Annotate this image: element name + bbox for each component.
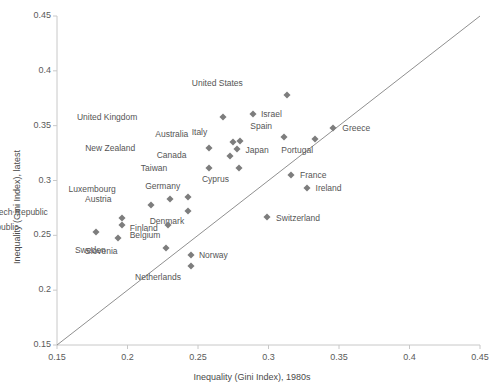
x-tick-label-5: 0.4 xyxy=(396,352,424,362)
data-point-label: Spain xyxy=(250,121,272,131)
y-tick-label-1: 0.2 xyxy=(17,284,51,294)
y-tick-label-2: 0.25 xyxy=(17,229,51,239)
data-point-label: France xyxy=(300,170,326,180)
y-tick-label-4: 0.35 xyxy=(17,120,51,130)
x-tick-label-3: 0.3 xyxy=(255,352,283,362)
x-axis-title: Inequality (Gini Index), 1980s xyxy=(0,372,504,382)
data-point-label: Slovenia xyxy=(85,246,118,256)
data-point-label: Austria xyxy=(85,194,111,204)
x-tick-label-2: 0.25 xyxy=(184,352,212,362)
y-axis-title: Inequality (Gini Index), latest xyxy=(12,150,22,264)
x-tick-label-4: 0.35 xyxy=(325,352,353,362)
data-point-label: Portugal xyxy=(281,145,313,155)
data-point-label: Greece xyxy=(342,123,370,133)
data-point-label: New Zealand xyxy=(85,143,135,153)
data-point-label: Belgium xyxy=(130,230,161,240)
data-point-label: Japan xyxy=(245,145,268,155)
data-point-label: Italy xyxy=(192,127,208,137)
data-point-label: Switzerland xyxy=(276,213,320,223)
data-point-label: Australia xyxy=(155,129,188,139)
data-point-label: Taiwan xyxy=(141,163,167,173)
y-tick-label-5: 0.4 xyxy=(17,65,51,75)
y-tick-label-3: 0.3 xyxy=(17,175,51,185)
x-tick-label-6: 0.45 xyxy=(466,352,494,362)
chart-canvas xyxy=(0,0,504,392)
data-point-label: Norway xyxy=(199,250,228,260)
data-point-label: Ireland xyxy=(316,183,342,193)
data-point-label: Germany xyxy=(145,181,180,191)
data-point-label: United Kingdom xyxy=(77,112,137,122)
data-point-label: Netherlands xyxy=(135,272,181,282)
data-point-label: Israel xyxy=(261,109,282,119)
scatter-chart: 0.150.20.250.30.350.40.45 0.150.20.250.3… xyxy=(0,0,504,392)
data-point-label: Cyprus xyxy=(202,174,229,184)
x-tick-label-1: 0.2 xyxy=(114,352,142,362)
data-point-label: Czech Republic xyxy=(0,207,48,217)
x-tick-label-0: 0.15 xyxy=(43,352,71,362)
y-tick-label-6: 0.45 xyxy=(17,10,51,20)
identity-reference-line xyxy=(57,16,480,345)
data-point-label: United States xyxy=(192,78,243,88)
data-point-label: Canada xyxy=(157,150,187,160)
y-tick-label-0: 0.15 xyxy=(17,339,51,349)
